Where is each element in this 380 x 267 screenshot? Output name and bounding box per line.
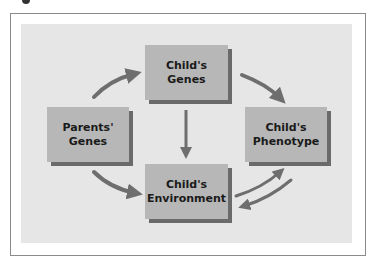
page-fragment-mark (22, 0, 30, 4)
node-label-line1: Child's (253, 121, 320, 135)
node-childs-genes: Child's Genes (145, 45, 228, 100)
node-childs-phenotype: Child's Phenotype (245, 107, 327, 162)
node-label-line2: Genes (62, 135, 113, 149)
node-label-line2: Genes (166, 73, 207, 87)
node-parents-genes: Parents' Genes (47, 107, 129, 162)
node-label-line2: Phenotype (253, 135, 320, 149)
node-childs-environment: Child's Environment (145, 164, 228, 219)
node-label-line1: Parents' (62, 121, 113, 135)
node-label-line1: Child's (147, 178, 226, 192)
node-label-line2: Environment (147, 192, 226, 206)
node-label-line1: Child's (166, 59, 207, 73)
